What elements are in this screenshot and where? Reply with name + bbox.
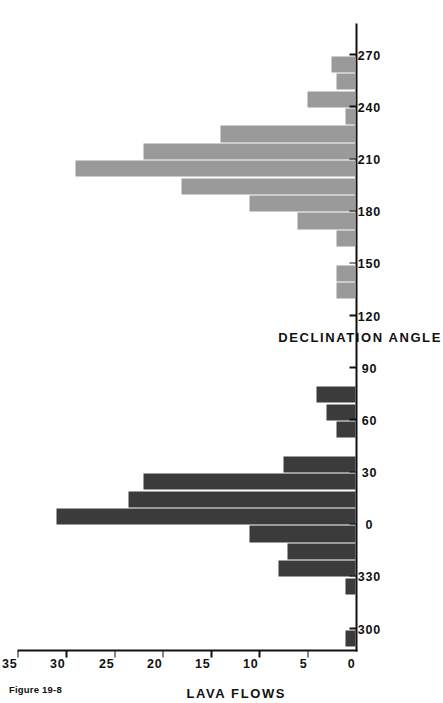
value-axis-tick-label: 20 — [146, 656, 162, 670]
bar — [278, 560, 355, 576]
bar — [143, 473, 355, 489]
value-axis-tick-label: 25 — [98, 656, 114, 670]
category-axis-tick — [349, 523, 356, 524]
bar — [336, 230, 355, 246]
category-axis-tick — [349, 210, 356, 211]
bar — [307, 91, 355, 107]
category-axis-tick — [349, 627, 356, 628]
x-axis-title: DECLINATION ANGLE (DEGREES) — [278, 330, 443, 345]
bar — [336, 265, 355, 281]
category-axis-tick-label: 90 — [361, 361, 377, 375]
category-axis-tick-label: 60 — [361, 413, 377, 427]
category-axis-tick — [349, 105, 356, 106]
bar — [336, 421, 355, 437]
category-axis-tick — [349, 418, 356, 419]
bar — [336, 282, 355, 298]
bar — [297, 212, 355, 228]
bar — [143, 143, 355, 159]
category-axis-tick — [349, 471, 356, 472]
bar — [345, 578, 355, 594]
category-axis-tick — [349, 262, 356, 263]
bar — [181, 178, 355, 194]
category-axis-tick-label: 270 — [357, 48, 380, 62]
bar — [220, 125, 355, 141]
category-axis-tick-label: 330 — [357, 569, 380, 583]
value-axis-tick-label: 0 — [347, 656, 355, 670]
figure-root: 3003300306090120150180210240270 05101520… — [0, 0, 443, 703]
figure-caption: Figure 19-8 — [9, 684, 62, 695]
value-axis-tick-label: 10 — [243, 656, 259, 670]
category-axis-tick-label: 120 — [357, 309, 380, 323]
category-axis-tick-label: 240 — [357, 100, 380, 114]
bar — [128, 491, 355, 507]
value-axis-tick — [258, 650, 259, 657]
category-axis-tick — [349, 158, 356, 159]
category-axis-tick-label: 210 — [357, 152, 380, 166]
bar — [345, 108, 355, 124]
category-axis-tick — [349, 314, 356, 315]
bar — [56, 508, 355, 524]
value-axis-tick-label: 35 — [1, 656, 17, 670]
bar — [336, 73, 355, 89]
category-axis-tick — [349, 366, 356, 367]
category-axis-tick — [349, 575, 356, 576]
bar — [287, 543, 355, 559]
value-axis-tick-label: 30 — [50, 656, 66, 670]
category-axis-tick — [349, 53, 356, 54]
bar — [316, 386, 355, 402]
value-axis-tick-label: 5 — [299, 656, 307, 670]
category-axis-tick-label: 180 — [357, 204, 380, 218]
category-axis-tick-label: 150 — [357, 256, 380, 270]
value-axis-tick-label: 15 — [195, 656, 211, 670]
bar — [249, 195, 355, 211]
chart-plot-area: 3003300306090120150180210240270 05101520… — [0, 0, 443, 703]
category-axis-tick-label: 0 — [365, 517, 373, 531]
category-axis-tick-label: 30 — [361, 465, 377, 479]
bar — [326, 404, 355, 420]
bar — [345, 630, 355, 646]
bar — [75, 160, 355, 176]
bar — [249, 525, 355, 541]
value-axis-line — [17, 649, 357, 651]
bar — [283, 456, 355, 472]
category-axis-tick-label: 300 — [357, 622, 380, 636]
y-axis-title: LAVA FLOWS — [186, 685, 286, 700]
bar — [331, 56, 355, 72]
